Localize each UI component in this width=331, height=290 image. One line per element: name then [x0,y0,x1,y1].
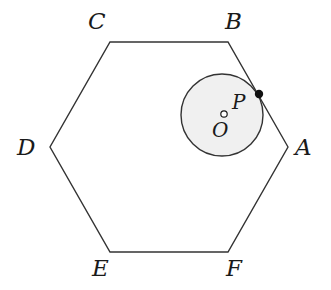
center-label-o: O [212,120,228,140]
hexagon-outline [50,42,288,252]
vertex-label-a: A [295,136,312,159]
vertex-label-c: C [88,10,106,33]
tangent-label-p: P [232,92,245,112]
geometry-figure: A B C D E F O P [0,0,331,290]
circle-center-marker-icon [221,111,227,117]
vertex-label-f: F [226,257,242,280]
vertex-label-b: B [225,10,242,33]
tangent-point-dot-icon [255,90,263,98]
vertex-label-d: D [17,136,35,159]
vertex-label-e: E [92,257,109,280]
figure-canvas [0,0,331,290]
